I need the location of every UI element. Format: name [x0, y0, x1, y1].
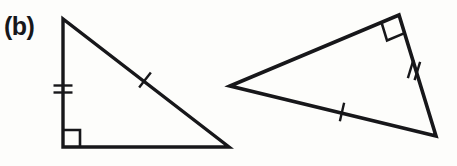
tick-marks-right-triangle: [340, 60, 420, 121]
left-triangle-outline: [63, 19, 229, 147]
left-right-triangle: [54, 19, 230, 147]
geometry-figure: (b): [0, 0, 457, 166]
right-angle-marker-left-triangle: [63, 130, 80, 147]
right-rotated-right-triangle: [230, 15, 436, 136]
figure-canvas: [0, 0, 457, 166]
right-triangle-outline: [230, 15, 436, 136]
double-tick-right-side: [408, 60, 414, 78]
